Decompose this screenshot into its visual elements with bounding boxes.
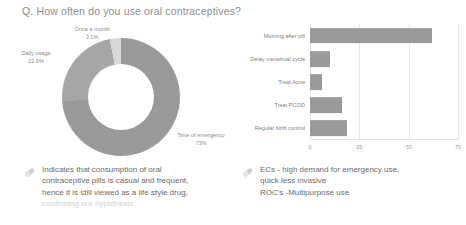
x-axis-tick: 0 (309, 144, 312, 150)
bar-segment (310, 51, 330, 67)
donut-label-daily-usage: Daily usage 22.9% (10, 50, 62, 65)
insight-left-line-2: contraceptive pills is casual and freque… (42, 176, 188, 185)
bar-chart-axis-line (310, 139, 458, 140)
x-axis-tick: 25 (356, 144, 362, 150)
donut-label-once-a-month-value: 3.1% (62, 34, 122, 42)
bar-category-label: Delay menstrual cycle (250, 56, 305, 62)
insight-right-line-2: quick less invasive (260, 176, 326, 185)
bar-chart-row: Regular birth control (310, 117, 458, 140)
donut-label-once-a-month: Once a month 3.1% (62, 26, 122, 41)
bar-category-label: Treat PCOD (274, 102, 305, 108)
donut-label-daily-usage-text: Daily usage (21, 50, 50, 56)
insight-right-line-3: ROC's -Multipurpose use (260, 188, 349, 197)
bar-category-label: Treat Acne (278, 79, 305, 85)
insight-note-left-text: Indicates that consumption of oral contr… (42, 164, 188, 210)
donut-label-time-of-emergency: Time of emergency 73% (168, 132, 234, 147)
insight-right-line-1: ECs - high demand for emergency use, (260, 165, 399, 174)
donut-hole (88, 64, 154, 130)
insight-note-left: Indicates that consumption of oral contr… (22, 164, 222, 210)
bar-segment (310, 74, 322, 90)
page-title: Q. How often do you use oral contracepti… (22, 5, 241, 17)
donut-label-once-a-month-text: Once a month (74, 26, 109, 32)
x-axis-tick: 75 (455, 144, 461, 150)
bar-chart-row: Treat Acne (310, 70, 458, 93)
insight-note-right-text: ECs - high demand for emergency use, qui… (260, 164, 399, 198)
bar-chart-plot-area: Morning after pillDelay menstrual cycleT… (310, 24, 458, 140)
bar-segment (310, 28, 432, 44)
bar-chart: Morning after pillDelay menstrual cycleT… (232, 20, 466, 160)
bar-segment (310, 97, 342, 113)
bar-category-label: Regular birth control (255, 125, 305, 131)
bar-chart-gridline (458, 24, 459, 140)
bar-category-label: Morning after pill (264, 33, 305, 39)
insight-note-right: ECs - high demand for emergency use, qui… (240, 164, 455, 198)
donut-graphic (62, 38, 180, 156)
donut-label-daily-usage-value: 22.9% (10, 58, 62, 66)
bar-chart-x-axis: 0255075 (310, 144, 458, 154)
pill-capsule-icon (22, 165, 37, 180)
bar-chart-row: Morning after pill (310, 24, 458, 47)
bar-segment (310, 121, 347, 137)
insight-left-line-3: hence it is still viewed as a life style… (42, 188, 188, 197)
bar-chart-row: Treat PCOD (310, 94, 458, 117)
donut-label-time-of-emergency-value: 73% (168, 140, 234, 148)
donut-chart: Once a month 3.1% Daily usage 22.9% Time… (0, 20, 232, 160)
x-axis-tick: 50 (406, 144, 412, 150)
insight-left-line-1: Indicates that consumption of oral (42, 165, 162, 174)
bar-chart-row: Delay menstrual cycle (310, 47, 458, 70)
pill-capsule-icon (240, 165, 255, 180)
donut-label-time-of-emergency-text: Time of emergency (177, 132, 225, 138)
insight-left-line-faded: confirming our hypothesis (42, 199, 133, 208)
